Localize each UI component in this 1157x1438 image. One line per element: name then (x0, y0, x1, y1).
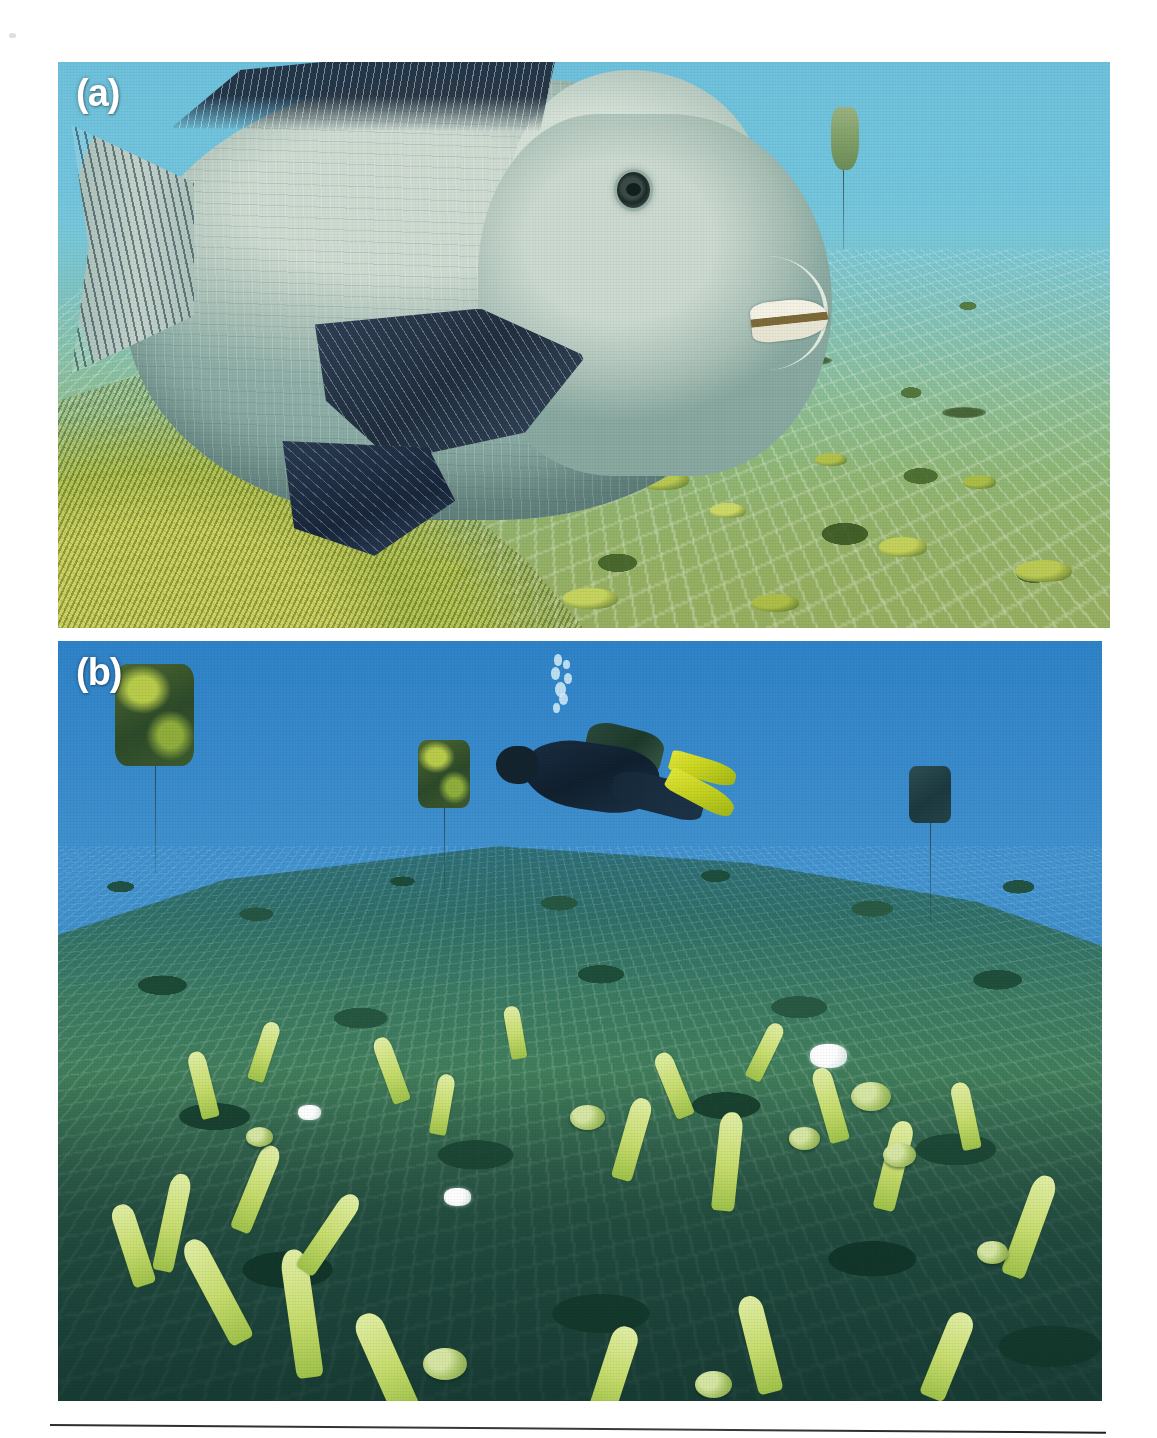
massive-coral (883, 1143, 916, 1167)
substrate-dark-patch (942, 407, 986, 418)
photo-panel-b: (b) (58, 641, 1102, 1401)
massive-coral (977, 1241, 1008, 1264)
coral-head (963, 475, 997, 489)
panel-label-b: (b) (76, 651, 122, 694)
massive-coral (851, 1082, 891, 1111)
massive-coral (423, 1348, 467, 1380)
massive-coral (246, 1127, 273, 1147)
buoy-right-dark (909, 766, 951, 823)
air-bubble (553, 703, 560, 712)
buoy-tether-line (444, 808, 445, 892)
coral-head (1015, 560, 1072, 582)
coral-head (563, 588, 618, 608)
scan-artifact-speck (9, 33, 16, 38)
buoy-mid-algal (418, 740, 470, 808)
air-bubble (559, 693, 568, 705)
coral-head (879, 537, 927, 556)
diver-bubble-stream (533, 653, 585, 725)
bumphead-parrotfish (79, 79, 847, 520)
photo-panel-a: (a) (58, 62, 1110, 628)
air-bubble (551, 667, 560, 680)
figure-bottom-rule (50, 1424, 1106, 1434)
buoy-tether-line (930, 823, 931, 922)
figure-page: (a) (b) (0, 0, 1157, 1438)
buoy-left-algal (115, 664, 193, 767)
air-bubble (564, 673, 572, 684)
air-bubble (563, 660, 570, 669)
coral-head (752, 594, 798, 612)
massive-coral (695, 1371, 733, 1398)
scuba-diver (476, 709, 737, 838)
panel-label-a: (a) (76, 72, 119, 115)
diver-head (496, 746, 538, 785)
parrotfish-pupil (626, 183, 641, 196)
bleached-coral (810, 1044, 848, 1068)
bleached-coral (298, 1105, 321, 1120)
air-bubble (554, 654, 562, 666)
buoy-tether-line (155, 766, 156, 872)
bleached-coral (444, 1188, 471, 1206)
